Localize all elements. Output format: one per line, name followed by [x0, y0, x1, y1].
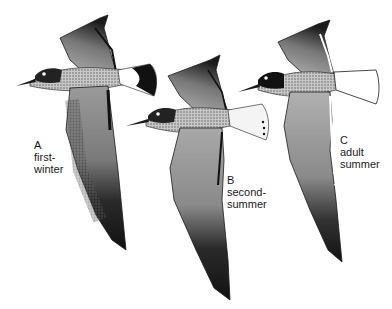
label-b-line1: second- [227, 186, 267, 198]
label-c-letter: C [340, 134, 380, 146]
label-a-line1: first- [34, 151, 63, 163]
label-a: A first- winter [34, 139, 63, 175]
label-b-line2: summer [227, 198, 267, 210]
label-a-line2: winter [34, 163, 63, 175]
label-c-line1: adult [340, 146, 380, 158]
label-c-line2: summer [340, 158, 380, 170]
label-c: C adult summer [340, 134, 380, 170]
label-b-letter: B [227, 174, 267, 186]
label-b: B second- summer [227, 174, 267, 210]
label-a-letter: A [34, 139, 63, 151]
gull-a-first-winter [16, 15, 157, 250]
illustration-plate: A first- winter B second- summer C adult… [0, 0, 392, 309]
